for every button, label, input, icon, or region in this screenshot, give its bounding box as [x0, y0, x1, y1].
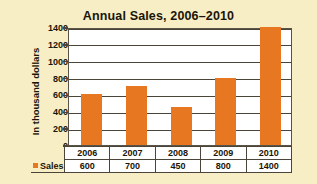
table-row-years: 20062007200820092010 — [31, 147, 292, 160]
legend-label: Sales — [40, 161, 64, 171]
gridline — [69, 29, 291, 30]
table-cell-year: 2006 — [64, 147, 109, 160]
bar-2010 — [260, 27, 281, 145]
table-cell-value: 1400 — [246, 160, 291, 173]
gridline — [69, 96, 291, 97]
table-row-values: Sales 6007004508001400 — [31, 160, 292, 173]
table-corner-cell — [31, 147, 64, 160]
table-cell-value: 600 — [64, 160, 109, 173]
table-cell-year: 2010 — [246, 147, 291, 160]
gridline — [69, 79, 291, 80]
bar-2006 — [81, 94, 102, 145]
legend-swatch-icon — [33, 163, 38, 168]
table-cell-value: 700 — [110, 160, 155, 173]
data-table: 20062007200820092010 Sales 6007004508001… — [31, 146, 292, 173]
table-cell-year: 2008 — [155, 147, 200, 160]
table-cell-year: 2009 — [201, 147, 246, 160]
gridline — [69, 45, 291, 46]
gridline — [69, 62, 291, 63]
legend-cell: Sales — [31, 160, 64, 173]
table-cell-value: 450 — [155, 160, 200, 173]
plot-area — [68, 28, 292, 146]
chart-figure: Annual Sales, 2006–2010 In thousand doll… — [0, 0, 317, 184]
table-cell-value: 800 — [201, 160, 246, 173]
bar-2009 — [215, 78, 236, 145]
table-cell-year: 2007 — [110, 147, 155, 160]
bar-2008 — [171, 107, 192, 145]
bar-2007 — [126, 86, 147, 145]
